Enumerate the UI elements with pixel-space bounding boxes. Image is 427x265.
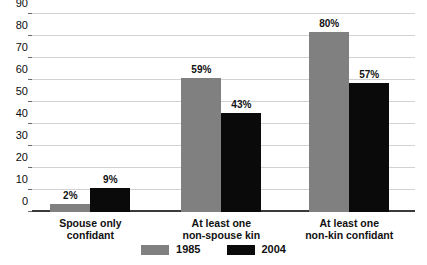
legend-swatch-1985 [141,245,169,255]
bar-value-label-1985-cat0: 2% [50,191,90,201]
y-tick-label-30: 30 [4,130,28,141]
category-label-2: At least onenon-kin confidant [279,217,419,241]
category-label-line: Spouse only [20,217,160,229]
legend-item-2004[interactable]: 2004 [227,244,286,255]
category-label-line: At least one [279,217,419,229]
category-label-line: At least one [151,217,291,229]
legend-swatch-2004 [227,245,255,255]
y-tick-label-50: 50 [4,86,28,97]
bars-layer: 2%9%59%43%80%57% [32,14,415,212]
bar-2004-cat0 [90,188,130,212]
y-tick-label-0: 0 [4,196,28,207]
bar-1985-cat1 [181,78,221,212]
y-axis: 0102030405060708090 [0,14,28,212]
bar-chart: 0102030405060708090 2%9%59%43%80%57% Spo… [0,0,427,265]
category-label-line: non-kin confidant [279,229,419,241]
category-label-0: Spouse onlyconfidant [20,217,160,241]
bar-value-label-2004-cat0: 9% [90,175,130,185]
legend-item-1985[interactable]: 1985 [141,244,200,255]
category-label-1: At least onenon-spouse kin [151,217,291,241]
category-label-line: non-spouse kin [151,229,291,241]
chart-legend: 19852004 [0,244,427,255]
y-tick-label-90: 90 [4,0,28,9]
bar-1985-cat2 [309,32,349,212]
y-tick-label-80: 80 [4,20,28,31]
category-label-line: confidant [20,229,160,241]
bar-value-label-2004-cat1: 43% [221,100,261,110]
bar-value-label-1985-cat1: 59% [181,65,221,75]
y-tick-label-20: 20 [4,152,28,163]
bar-value-label-2004-cat2: 57% [349,70,389,80]
bar-1985-cat0 [50,204,90,212]
bar-2004-cat2 [349,83,389,212]
legend-label-1985: 1985 [176,244,200,255]
bar-value-label-1985-cat2: 80% [309,19,349,29]
legend-label-2004: 2004 [262,244,286,255]
y-tick-label-70: 70 [4,42,28,53]
y-tick-label-60: 60 [4,64,28,75]
y-tick-label-10: 10 [4,174,28,185]
y-tick-label-40: 40 [4,108,28,119]
bar-2004-cat1 [221,113,261,212]
